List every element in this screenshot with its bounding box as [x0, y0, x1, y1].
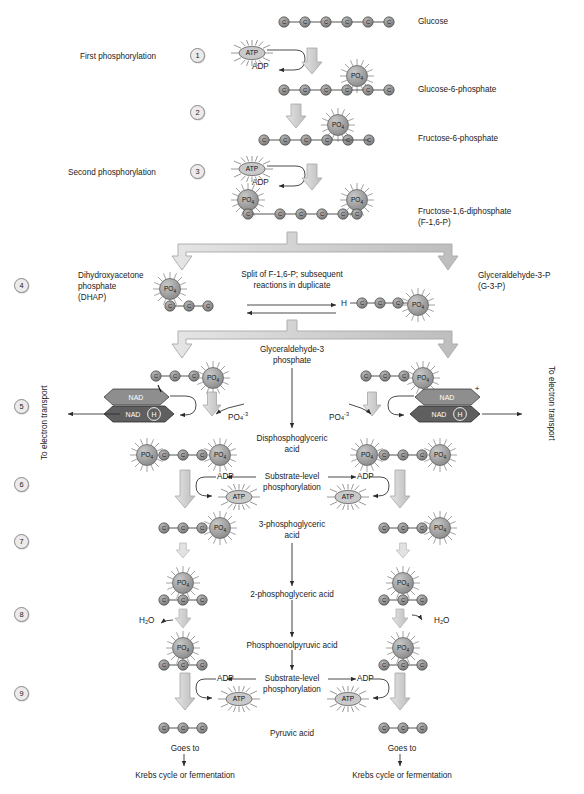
svg-text:C: C — [360, 300, 364, 306]
chain-2pg-left: C C C — [159, 595, 207, 605]
svg-text:ATP: ATP — [342, 493, 355, 500]
svg-text:C: C — [378, 300, 382, 306]
svg-text:C: C — [200, 597, 204, 603]
step-label-first-phosphorylation: First phosphorylation — [80, 52, 156, 63]
label-pyruvic-acid: Pyruvic acid — [270, 729, 314, 740]
svg-text:C: C — [282, 19, 286, 25]
svg-text:C: C — [187, 303, 191, 309]
label-g3p-line1: Glyceraldehyde-3-P — [478, 271, 550, 282]
po4-g3p-left: PO4 — [196, 361, 230, 395]
svg-text:C: C — [382, 452, 386, 458]
compound-label-fructose-6-phosphate: Fructose-6-phosphate — [418, 134, 498, 145]
svg-text:C: C — [324, 87, 328, 93]
label-phosphate-ion-right: PO4-3 — [320, 398, 349, 433]
svg-text:C: C — [154, 373, 158, 379]
step-number-1: 1 — [190, 48, 205, 63]
label-water-left: H₂O — [139, 616, 154, 627]
svg-text:C: C — [162, 662, 166, 668]
phosphate-ion-left-base: PO — [228, 412, 240, 421]
label-dhap-line3: (DHAP) — [78, 293, 106, 304]
label-phosphate-ion-left: PO4-3 — [219, 398, 248, 433]
svg-text:C: C — [282, 87, 286, 93]
svg-text:NAD: NAD — [432, 411, 447, 418]
svg-text:NAD: NAD — [126, 411, 141, 418]
svg-text:H: H — [457, 411, 462, 418]
label-substrate-level-1-line2: phosphorylation — [263, 483, 321, 494]
po4-dpg-left-b: PO4 — [203, 438, 237, 472]
step-number-3: 3 — [190, 164, 205, 179]
svg-text:C: C — [401, 662, 405, 668]
chain-g6p: C C C C C C — [279, 85, 394, 95]
svg-text:C: C — [401, 725, 405, 731]
chain-pyruvate-left: C C C — [159, 723, 207, 733]
svg-text:C: C — [246, 211, 250, 217]
svg-text:C: C — [366, 19, 370, 25]
step-label-second-phosphorylation: Second phosphorylation — [68, 168, 156, 179]
nadh-hexagon-right: NAD H — [410, 406, 480, 422]
svg-text:C: C — [162, 525, 166, 531]
compound-label-glucose: Glucose — [418, 17, 448, 28]
label-adp-step1: ADP — [252, 62, 269, 73]
svg-text:C: C — [200, 725, 204, 731]
fat-arrow-step6-right — [390, 470, 410, 508]
label-hydrogen-g3p: H — [341, 299, 347, 310]
chain-g3p-left: C C C — [151, 371, 199, 381]
svg-text:C: C — [382, 597, 386, 603]
svg-text:C: C — [303, 87, 307, 93]
svg-text:C: C — [401, 525, 405, 531]
atp-burst-step9-right: ATP — [327, 686, 369, 712]
label-3pg-line1: 3-phosphoglyceric — [259, 520, 325, 531]
fat-arrow-step8-right — [392, 609, 408, 628]
svg-text:C: C — [206, 303, 210, 309]
svg-text:C: C — [382, 525, 386, 531]
label-adp-step9-right: ADP — [357, 674, 374, 685]
chain-dpg-right: C C C — [379, 450, 427, 460]
svg-text:C: C — [303, 19, 307, 25]
chain-3pg-right: C C C — [379, 523, 427, 533]
svg-text:H: H — [151, 411, 156, 418]
label-split-line2: reactions in duplicate — [254, 281, 331, 292]
svg-text:C: C — [181, 597, 185, 603]
svg-text:C: C — [262, 137, 266, 143]
chain-dpg-left: C C C — [159, 450, 207, 460]
label-2pg: 2-phosphoglyceric acid — [250, 590, 334, 601]
chain-pep-right: C C C — [379, 660, 427, 670]
svg-text:C: C — [325, 137, 329, 143]
po4-dpg-right-b: PO4 — [423, 438, 457, 472]
split-bracket-top — [172, 232, 458, 270]
chain-f16p: C C C C C C — [243, 209, 362, 219]
svg-text:C: C — [181, 725, 185, 731]
svg-text:C: C — [173, 373, 177, 379]
label-dpg-line2: acid — [284, 445, 299, 456]
label-krebs-right: Krebs cycle or fermentation — [352, 771, 452, 782]
svg-text:C: C — [382, 725, 386, 731]
svg-text:C: C — [192, 373, 196, 379]
svg-text:NAD: NAD — [440, 394, 455, 401]
svg-text:C: C — [168, 303, 172, 309]
label-adp-step6-right: ADP — [357, 472, 374, 483]
fat-arrow-step9-left — [175, 673, 195, 710]
svg-text:C: C — [355, 211, 359, 217]
label-adp-step9-left: ADP — [217, 674, 234, 685]
chain-glucose: C C C C C C — [279, 17, 394, 27]
svg-text:C: C — [396, 300, 400, 306]
label-water-right: H₂O — [434, 616, 449, 627]
label-electron-transport-right: To electron transport — [547, 366, 556, 441]
chain-g3p-right: C C C — [361, 371, 409, 381]
svg-text:ATP: ATP — [246, 165, 259, 172]
svg-text:C: C — [401, 452, 405, 458]
label-substrate-level-2-line1: Substrate-level — [265, 674, 320, 685]
fat-arrow-step8-left — [175, 609, 191, 628]
svg-text:C: C — [420, 662, 424, 668]
label-g3p-line2: (G-3-P) — [478, 282, 505, 293]
svg-text:C: C — [283, 137, 287, 143]
chain-f6p: C C C C C C — [259, 135, 374, 145]
step-number-9: 9 — [14, 686, 29, 701]
label-dpg-line1: Disphosphoglyceric — [257, 434, 328, 445]
po4-3pg-left: PO4 — [203, 511, 237, 545]
svg-text:C: C — [200, 525, 204, 531]
label-dhap-line2: phosphate — [78, 282, 116, 293]
fat-arrow-step9-right — [390, 673, 410, 710]
svg-text:C: C — [162, 597, 166, 603]
svg-text:+: + — [475, 384, 480, 393]
